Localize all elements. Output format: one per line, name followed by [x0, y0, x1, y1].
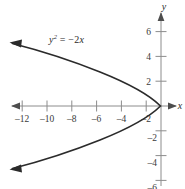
x-tick-label--12: –12 — [14, 114, 30, 124]
curve-upper-arrow-icon — [10, 40, 23, 48]
equation-annotation: y2 = −2x — [49, 33, 84, 45]
x-axis-left-arrow-icon — [11, 103, 20, 110]
x-tick-label--4: –4 — [116, 114, 127, 124]
y-tick-label-4: 4 — [146, 52, 151, 62]
curve-lower-arrow-icon — [10, 165, 23, 173]
y-tick-label--4: –4 — [147, 158, 158, 168]
y-tick-label--6: –6 — [147, 183, 158, 189]
y-tick-label-6: 6 — [146, 27, 151, 37]
x-axis-label: x — [177, 100, 183, 111]
equation-operator: = −2 — [57, 34, 79, 45]
plot-area: –12 –10 –8 –6 –4 –2 6 4 2 –2 –4 –6 x y — [0, 0, 185, 189]
y-tick-label--2: –2 — [147, 133, 158, 143]
y-tick-label-2: 2 — [146, 77, 151, 87]
x-tick-label--8: –8 — [66, 114, 77, 124]
x-tick-label--6: –6 — [91, 114, 102, 124]
x-tick-label--10: –10 — [39, 114, 55, 124]
parabola-graph-figure: –12 –10 –8 –6 –4 –2 6 4 2 –2 –4 –6 x y y… — [0, 0, 185, 189]
y-axis-label: y — [161, 1, 167, 12]
x-axis-right-arrow-icon — [168, 103, 177, 110]
equation-variable: x — [79, 34, 84, 45]
y-axis-up-arrow-icon — [158, 12, 165, 21]
